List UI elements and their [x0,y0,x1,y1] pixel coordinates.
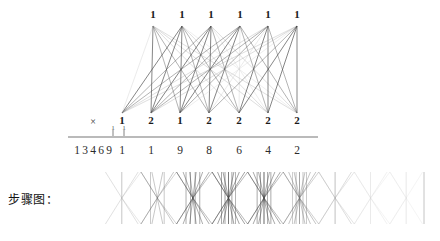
step-strip-group [105,172,424,224]
top-digit-3: 1 [233,8,247,20]
edge-line [211,26,239,113]
top-digit-0: 1 [146,8,160,20]
result-digit-6: 2 [290,144,304,156]
left-operand-digit-4: 9 [102,144,116,156]
edge-group [122,26,297,113]
edge-line [390,172,406,198]
result-digit-3: 8 [202,144,216,156]
edge-line [319,172,335,198]
top-digit-1: 1 [175,8,189,20]
edge-line [209,26,240,113]
edge-line [335,198,354,224]
edge-line [153,26,239,113]
line-multiplication-graph [0,0,440,241]
diagram-canvas: 111111121222211134691198642 步骤图： × [0,0,440,241]
result-digit-4: 6 [232,144,246,156]
edge-line [390,198,406,224]
edge-line [335,172,354,198]
top-digit-2: 1 [204,8,218,20]
top-digit-4: 1 [261,8,275,20]
edge-line [371,172,390,198]
step-diagram-label: 步骤图： [8,190,58,207]
edge-line [354,172,370,198]
edge-line [151,26,240,113]
top-digit-5: 1 [290,8,304,20]
result-digit-2: 9 [173,144,187,156]
bottom-digit-1: 2 [144,114,158,126]
carry-digit-0: 1 [108,122,118,134]
result-digit-5: 4 [261,144,275,156]
edge-line [371,198,390,224]
bottom-digit-3: 2 [202,114,216,126]
edge-line [354,198,370,224]
edge-line [122,198,141,224]
edge-line [122,172,141,198]
rule-line-group [68,130,318,137]
result-digit-1: 1 [144,144,158,156]
bottom-digit-5: 2 [261,114,275,126]
edge-line [319,198,335,224]
bottom-digit-2: 1 [173,114,187,126]
result-digit-0: 1 [115,144,129,156]
multiply-sign: × [87,116,99,127]
bottom-digit-6: 2 [290,114,304,126]
carry-digit-1: 1 [119,122,129,134]
bottom-digit-4: 2 [232,114,246,126]
